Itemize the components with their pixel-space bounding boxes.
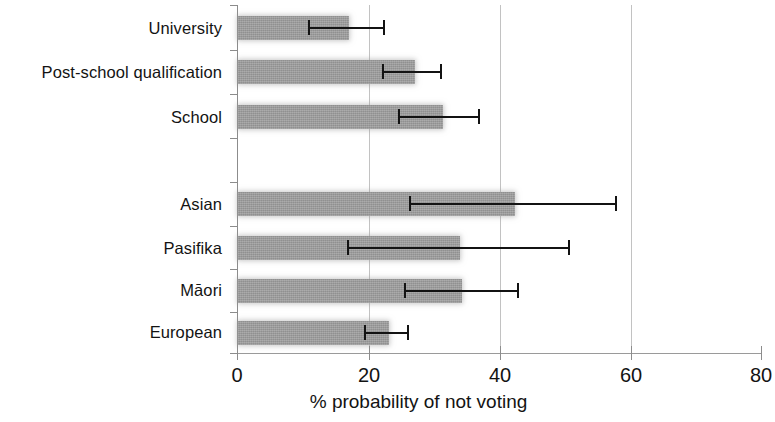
y-axis-tick	[230, 226, 237, 227]
x-axis-title: % probability of not voting	[0, 392, 775, 411]
x-axis-label-40: 40	[489, 365, 511, 385]
y-axis-tick	[230, 94, 237, 95]
errorbar-cap-high-european	[407, 325, 409, 340]
y-axis-tick	[230, 5, 237, 6]
chart-figure: University Post-school qualification Sch…	[0, 0, 775, 422]
category-label-university: University	[149, 20, 222, 37]
gridline-40	[500, 5, 501, 353]
errorbar-cap-high-school	[478, 109, 480, 124]
errorbar-line-european	[364, 332, 408, 334]
errorbar-line-maori	[404, 290, 518, 292]
x-axis-label-80: 80	[750, 365, 772, 385]
errorbar-cap-high-post-school	[440, 64, 442, 79]
y-axis-tick	[230, 312, 237, 313]
errorbar-line-school	[398, 116, 479, 118]
errorbar-cap-high-pasifika	[568, 240, 570, 255]
category-label-asian: Asian	[180, 196, 222, 213]
category-label-european: European	[150, 324, 222, 341]
y-axis-tick	[230, 50, 237, 51]
x-axis-tick-60	[631, 346, 632, 360]
errorbar-cap-low-european	[364, 325, 366, 340]
category-label-post-school: Post-school qualification	[42, 64, 222, 81]
errorbar-cap-high-maori	[517, 283, 519, 298]
x-axis-label-20: 20	[358, 365, 380, 385]
errorbar-cap-low-asian	[409, 196, 411, 211]
x-axis-label-60: 60	[620, 365, 642, 385]
errorbar-line-asian	[409, 203, 616, 205]
category-label-column: University Post-school qualification Sch…	[0, 0, 222, 360]
errorbar-cap-low-post-school	[382, 64, 384, 79]
y-axis-tick	[230, 182, 237, 183]
errorbar-cap-low-maori	[404, 283, 406, 298]
errorbar-cap-low-school	[398, 109, 400, 124]
x-axis-tick-20	[369, 346, 370, 360]
x-axis-label-0: 0	[231, 365, 242, 385]
x-axis-tick-80	[761, 346, 762, 360]
errorbar-cap-high-university	[383, 20, 385, 35]
errorbar-cap-low-university	[308, 20, 310, 35]
x-axis-tick-0	[237, 346, 238, 360]
gridline-60	[631, 5, 632, 353]
x-axis-tick-40	[500, 346, 501, 360]
category-label-pasifika: Pasifika	[163, 240, 222, 257]
errorbar-line-university	[308, 27, 385, 29]
errorbar-line-pasifika	[347, 247, 569, 249]
errorbar-cap-low-pasifika	[347, 240, 349, 255]
category-label-maori: Māori	[180, 282, 222, 299]
y-axis-tick	[230, 353, 237, 354]
errorbar-cap-high-asian	[615, 196, 617, 211]
y-axis-tick	[230, 138, 237, 139]
x-axis-title-text: % probability of not voting	[310, 392, 528, 411]
y-axis-tick	[230, 269, 237, 270]
plot-area: 0 20 40 60 80	[237, 5, 762, 353]
errorbar-line-post-school	[382, 71, 442, 73]
category-label-school: School	[171, 109, 222, 126]
